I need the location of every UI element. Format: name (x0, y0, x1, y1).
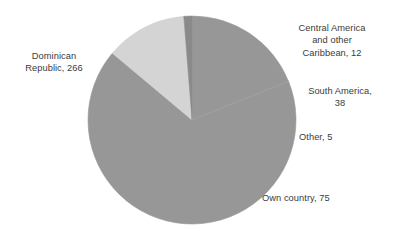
pie-label-central-america: Central America and other Caribbean, 12 (273, 22, 391, 59)
pie-chart-figure: Dominican Republic, 266 Central America … (0, 0, 397, 231)
pie-label-other: Other, 5 (299, 131, 379, 143)
pie-label-dominican-republic: Dominican Republic, 266 (6, 50, 102, 75)
pie-label-own-country: Own country, 75 (262, 192, 382, 204)
pie-label-south-america: South America, 38 (289, 85, 391, 110)
